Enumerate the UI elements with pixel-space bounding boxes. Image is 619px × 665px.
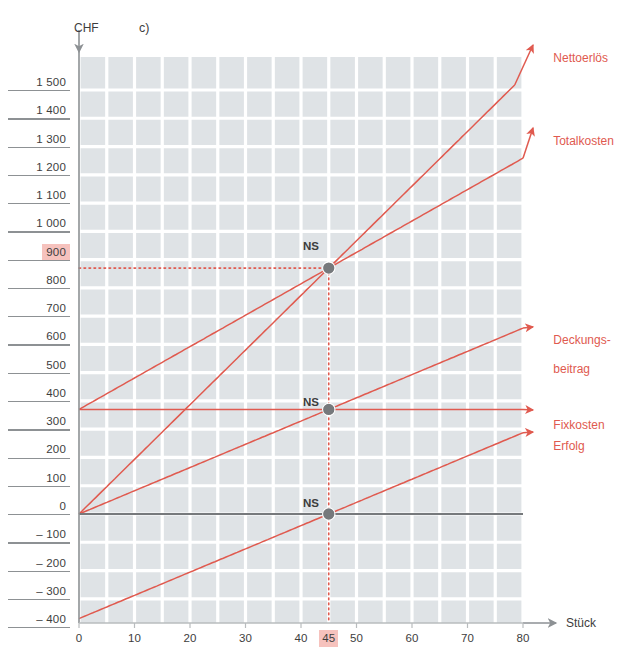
y-tick-rule: [8, 175, 70, 176]
series-arrow-fixkosten: [523, 409, 533, 410]
y-tick-rule: [8, 118, 70, 119]
ns-label-middle: NS: [303, 396, 319, 408]
break-even-chart-figure: 1 5001 4001 3001 2001 1001 0009008007006…: [0, 0, 619, 665]
y-tick-rule: [8, 599, 70, 600]
y-tick-value: – 400: [32, 611, 70, 628]
x-tick-value: 30: [236, 630, 255, 647]
x-tick-value: 60: [403, 630, 422, 647]
y-tick-rule: [8, 486, 70, 487]
x-tick-value: 0: [73, 630, 85, 647]
y-tick-label-500: 500: [8, 357, 70, 372]
y-tick-value: 900: [42, 244, 70, 261]
x-tick-label-0: 0: [64, 630, 94, 645]
ns-label-bottom: NS: [303, 497, 319, 509]
y-tick-label-200-neg: – 200: [8, 555, 70, 570]
ns-label-top: NS: [303, 240, 319, 252]
series-label-deckungsbeitrag-line2: beitrag: [553, 362, 590, 376]
y-tick-label-1300: 1 300: [8, 131, 70, 146]
y-tick-rule: [8, 203, 70, 204]
y-tick-rule: [8, 90, 70, 91]
y-tick-rule: [8, 401, 70, 402]
y-tick-label-100-neg: – 100: [8, 526, 70, 541]
y-tick-label-1000: 1 000: [8, 215, 70, 230]
x-axis-title: Stück: [566, 616, 596, 630]
y-tick-value: 600: [42, 328, 70, 345]
y-tick-rule: [8, 373, 70, 374]
y-tick-label-0: 0: [8, 498, 70, 513]
x-tick-label-60: 60: [397, 630, 427, 645]
y-tick-rule: [8, 458, 70, 459]
x-tick-marks: [79, 623, 523, 628]
y-tick-label-1500: 1 500: [8, 74, 70, 89]
break-even-marker-1: [323, 403, 335, 415]
y-tick-label-300: 300: [8, 413, 70, 428]
y-tick-label-400: 400: [8, 385, 70, 400]
y-tick-rule: [8, 316, 70, 317]
y-tick-rule: [8, 571, 70, 572]
y-tick-value: – 300: [32, 583, 70, 600]
x-tick-label-30: 30: [231, 630, 261, 645]
series-label-deckungsbeitrag-line1: Deckungs-: [553, 333, 610, 347]
y-tick-value: 700: [42, 300, 70, 317]
x-tick-label-80: 80: [508, 630, 538, 645]
y-tick-value: 100: [42, 470, 70, 487]
chart-canvas: [0, 0, 619, 665]
x-tick-label-70: 70: [453, 630, 483, 645]
x-tick-label-50: 50: [342, 630, 372, 645]
y-tick-label-1200: 1 200: [8, 159, 70, 174]
y-tick-label-400-neg: – 400: [8, 611, 70, 626]
y-tick-value: – 200: [32, 555, 70, 572]
y-tick-rule: [8, 627, 70, 628]
series-label-totalkosten: Totalkosten: [540, 119, 614, 163]
y-tick-rule: [8, 542, 70, 543]
x-tick-label-45: 45: [314, 630, 344, 645]
y-tick-label-1100: 1 100: [8, 187, 70, 202]
y-tick-value: 1 400: [32, 102, 70, 119]
y-tick-label-900: 900: [8, 244, 70, 259]
panel-letter: c): [139, 21, 149, 35]
y-tick-value: 500: [42, 357, 70, 374]
y-tick-value: 300: [42, 413, 70, 430]
x-tick-value: 10: [125, 630, 144, 647]
y-tick-label-200: 200: [8, 441, 70, 456]
y-tick-rule: [8, 429, 70, 430]
y-tick-label-800: 800: [8, 272, 70, 287]
y-tick-value: 800: [42, 272, 70, 289]
y-tick-rule: [8, 260, 70, 261]
y-tick-value: 1 500: [32, 74, 70, 91]
y-tick-rule: [8, 147, 70, 148]
y-tick-value: 1 100: [32, 187, 70, 204]
y-tick-rule: [8, 288, 70, 289]
x-tick-value: 80: [514, 630, 533, 647]
y-tick-value: – 100: [32, 526, 70, 543]
y-tick-value: 1 000: [32, 215, 70, 232]
x-tick-value: 45: [319, 630, 338, 647]
x-tick-value: 40: [292, 630, 311, 647]
series-label-erfolg-line1: Erfolg: [553, 439, 584, 453]
x-tick-value: 50: [347, 630, 366, 647]
series-label-totalkosten-line1: Totalkosten: [553, 134, 614, 148]
series-label-nettoerloes: Nettoerlös: [540, 36, 608, 80]
series-label-nettoerloes-line1: Nettoerlös: [553, 51, 608, 65]
y-tick-rule: [8, 231, 70, 232]
y-tick-value: 1 300: [32, 131, 70, 148]
x-tick-value: 70: [458, 630, 477, 647]
y-axis-title: CHF: [74, 21, 99, 35]
y-tick-value: 400: [42, 385, 70, 402]
x-tick-label-10: 10: [120, 630, 150, 645]
y-tick-rule: [8, 514, 70, 515]
y-tick-value: 0: [55, 498, 70, 515]
series-arrow-erfolg: [523, 432, 533, 433]
x-tick-value: 20: [181, 630, 200, 647]
break-even-marker-0: [323, 262, 335, 274]
y-tick-label-100: 100: [8, 470, 70, 485]
y-tick-rule: [8, 344, 70, 345]
y-tick-label-300-neg: – 300: [8, 583, 70, 598]
y-tick-value: 1 200: [32, 159, 70, 176]
break-even-marker-2: [323, 508, 335, 520]
y-tick-label-600: 600: [8, 328, 70, 343]
series-label-erfolg: Erfolg: [540, 424, 585, 468]
series-label-deckungsbeitrag: Deckungs- beitrag: [540, 318, 611, 391]
x-tick-label-20: 20: [175, 630, 205, 645]
x-tick-label-40: 40: [286, 630, 316, 645]
